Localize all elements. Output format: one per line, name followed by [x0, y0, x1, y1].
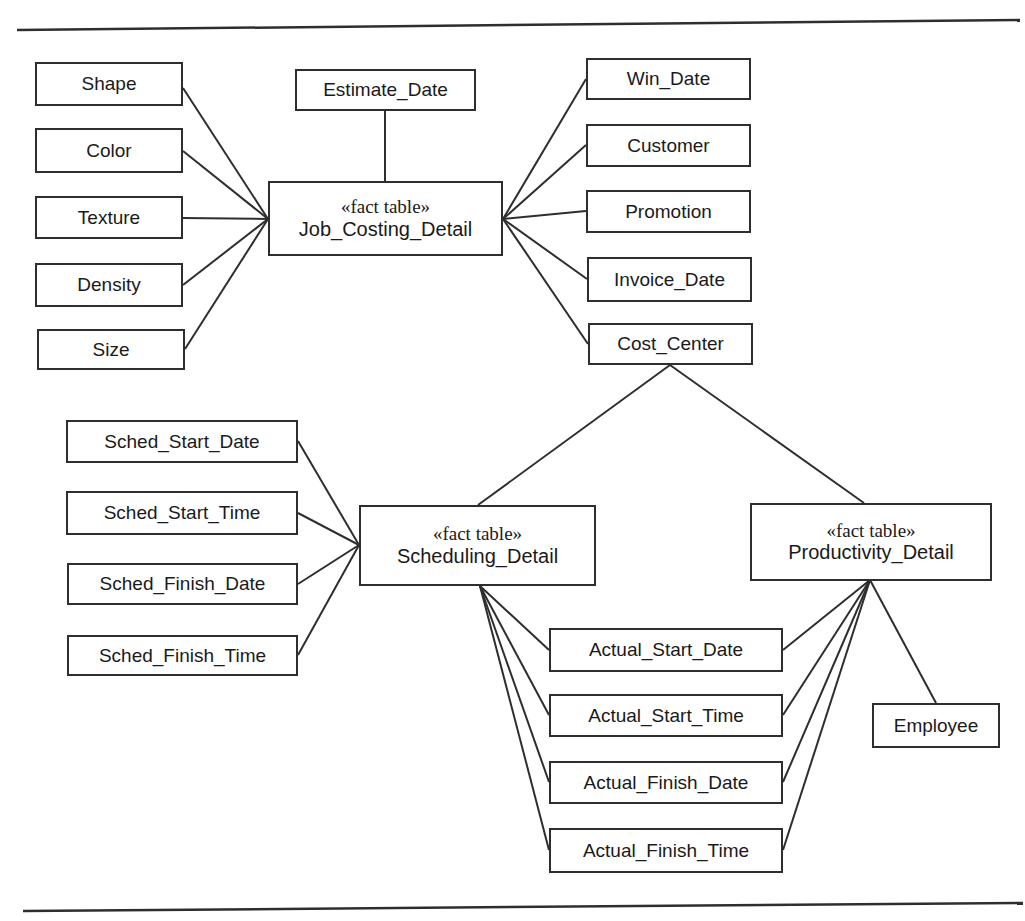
dimension-texture: Texture [35, 196, 183, 239]
fact-table-scheduling-name: Scheduling_Detail [397, 545, 558, 568]
edge-size-job-costing [185, 219, 268, 349]
fact-table-scheduling-detail: «fact table» Scheduling_Detail [359, 505, 596, 586]
dimension-cost-center-label: Cost_Center [617, 333, 724, 355]
fact-table-productivity-detail: «fact table» Productivity_Detail [750, 503, 992, 581]
dimension-sched-start-date: Sched_Start_Date [66, 420, 298, 463]
dimension-invoice-date-label: Invoice_Date [614, 269, 725, 291]
dimension-actual-start-date: Actual_Start_Date [549, 628, 783, 672]
dimension-sched-finish-date: Sched_Finish_Date [67, 563, 298, 605]
dimension-win-date-label: Win_Date [627, 68, 710, 90]
edge-cost-center-scheduling [478, 365, 670, 505]
dimension-customer-label: Customer [627, 135, 709, 157]
dimension-employee: Employee [872, 703, 1000, 748]
dimension-actual-start-time: Actual_Start_Time [549, 694, 783, 737]
dimension-sched-start-time: Sched_Start_Time [66, 491, 298, 535]
edge-sched-finish-date-scheduling [298, 545, 359, 584]
dimension-promotion: Promotion [586, 190, 751, 233]
fact-table-job-costing-stereotype: «fact table» [341, 196, 430, 218]
dimension-actual-finish-time: Actual_Finish_Time [549, 828, 783, 873]
dimension-texture-label: Texture [78, 207, 140, 229]
dimension-actual-finish-date-label: Actual_Finish_Date [584, 772, 749, 794]
edge-job-costing-customer [503, 145, 586, 219]
dimension-size-label: Size [93, 339, 130, 361]
edge-productivity-employee [870, 580, 936, 703]
dimension-color-label: Color [86, 140, 131, 162]
dimension-density-label: Density [77, 274, 140, 296]
edge-density-job-costing [183, 219, 268, 285]
dimension-sched-finish-time: Sched_Finish_Time [67, 635, 298, 676]
edge-job-costing-invoice-date [503, 219, 587, 279]
dimension-color: Color [35, 128, 183, 173]
dimension-size: Size [37, 329, 185, 370]
edge-productivity-actual-finish-date [783, 580, 870, 782]
dimension-shape: Shape [35, 62, 183, 106]
edge-job-costing-win-date [503, 79, 586, 219]
dimension-win-date: Win_Date [586, 58, 751, 100]
bottom-rule [23, 903, 1023, 911]
dimension-estimate-date-label: Estimate_Date [323, 79, 448, 101]
dimension-customer: Customer [586, 124, 751, 167]
edge-productivity-actual-start-time [783, 580, 870, 715]
dimension-sched-start-time-label: Sched_Start_Time [104, 502, 261, 524]
fact-table-productivity-name: Productivity_Detail [788, 541, 954, 564]
fact-table-job-costing-detail: «fact table» Job_Costing_Detail [268, 181, 503, 256]
dimension-shape-label: Shape [82, 73, 137, 95]
edge-shape-job-costing [183, 88, 268, 219]
dimensional-model-diagram: Shape Color Texture Density Size Estimat… [0, 0, 1025, 921]
dimension-estimate-date: Estimate_Date [295, 69, 476, 111]
edge-productivity-actual-start-date [783, 580, 870, 650]
dimension-actual-finish-date: Actual_Finish_Date [549, 761, 783, 804]
dimension-actual-finish-time-label: Actual_Finish_Time [583, 840, 749, 862]
dimension-sched-finish-date-label: Sched_Finish_Date [100, 573, 266, 595]
dimension-sched-finish-time-label: Sched_Finish_Time [99, 645, 266, 667]
edge-scheduling-actual-finish-time [480, 586, 549, 850]
edge-job-costing-cost-center [503, 219, 588, 344]
edge-cost-center-productivity [670, 365, 864, 503]
dimension-invoice-date: Invoice_Date [587, 257, 752, 302]
fact-table-productivity-stereotype: «fact table» [826, 520, 915, 542]
dimension-actual-start-time-label: Actual_Start_Time [588, 705, 744, 727]
dimension-actual-start-date-label: Actual_Start_Date [589, 639, 743, 661]
dimension-density: Density [35, 263, 183, 307]
fact-table-job-costing-name: Job_Costing_Detail [299, 218, 472, 241]
edge-scheduling-actual-finish-date [480, 586, 549, 782]
edge-texture-job-costing [183, 218, 268, 219]
edge-job-costing-promotion [503, 211, 586, 219]
edge-sched-finish-time-scheduling [298, 545, 359, 655]
dimension-cost-center: Cost_Center [588, 323, 753, 365]
edge-scheduling-actual-start-time [480, 586, 549, 715]
edge-productivity-actual-finish-time [783, 580, 870, 850]
dimension-promotion-label: Promotion [625, 201, 712, 223]
fact-table-scheduling-stereotype: «fact table» [433, 523, 522, 545]
dimension-sched-start-date-label: Sched_Start_Date [104, 431, 259, 453]
dimension-employee-label: Employee [894, 715, 979, 737]
top-rule [17, 20, 1020, 30]
edge-color-job-costing [183, 151, 268, 219]
